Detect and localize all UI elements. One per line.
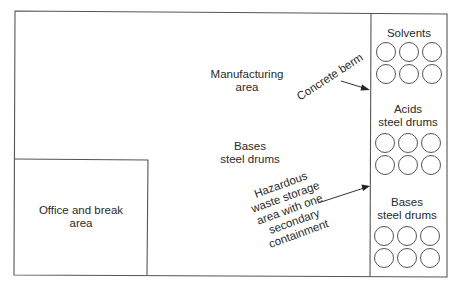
drum-icon: [376, 134, 395, 153]
solvents-label: Solvents: [387, 27, 431, 39]
manufacturing-area-label: Manufacturing area: [211, 68, 284, 93]
storage-column-divider: [370, 13, 371, 277]
office-label-line1: Office and break: [39, 204, 123, 216]
solvents-section: Solvents: [377, 27, 442, 84]
hazardous-waste-arrow: [318, 185, 370, 204]
acids-label-line1: Acids: [394, 103, 422, 115]
drum-icon: [377, 43, 396, 62]
bases-storage-label-line2: steel drums: [377, 209, 437, 221]
bases-floor-label: Bases steel drums: [220, 140, 280, 165]
floor-plan-diagram: Manufacturing area Bases steel drums Off…: [0, 0, 460, 293]
drum-icon: [375, 249, 394, 268]
bases-floor-label-line1: Bases: [234, 140, 266, 152]
acids-drums: [376, 134, 441, 175]
acids-label-line2: steel drums: [378, 116, 438, 128]
bases-storage-section: Bases steel drums: [375, 196, 440, 268]
drum-icon: [377, 65, 396, 84]
drum-icon: [398, 249, 417, 268]
bases-floor-label-line2: steel drums: [220, 153, 280, 165]
drum-icon: [400, 43, 419, 62]
office-label-line2: area: [69, 217, 93, 229]
arrow-head-icon: [361, 85, 371, 91]
drum-icon: [423, 65, 442, 84]
drum-icon: [421, 249, 440, 268]
drum-icon: [375, 227, 394, 246]
drum-icon: [423, 43, 442, 62]
manufacturing-label-line2: area: [235, 81, 259, 93]
concrete-berm-callout: Concrete berm: [295, 51, 370, 102]
drum-icon: [398, 227, 417, 246]
concrete-berm-label: Concrete berm: [295, 51, 365, 102]
drum-icon: [399, 156, 418, 175]
bases-drums: [375, 227, 440, 268]
hazardous-waste-callout: Hazardous waste storage area with one se…: [244, 167, 334, 252]
manufacturing-label-line1: Manufacturing: [211, 68, 284, 80]
solvents-drums: [377, 43, 442, 84]
drum-icon: [376, 156, 395, 175]
concrete-berm-arrow-line: [341, 81, 364, 88]
acids-section: Acids steel drums: [376, 103, 441, 175]
drum-icon: [422, 134, 441, 153]
hazardous-arrow-line: [318, 188, 364, 203]
drum-icon: [400, 65, 419, 84]
drum-icon: [422, 156, 441, 175]
drum-icon: [399, 134, 418, 153]
bases-storage-label-line1: Bases: [391, 196, 423, 208]
drum-icon: [421, 227, 440, 246]
office-label: Office and break area: [39, 204, 123, 229]
arrow-head-icon: [362, 185, 371, 192]
